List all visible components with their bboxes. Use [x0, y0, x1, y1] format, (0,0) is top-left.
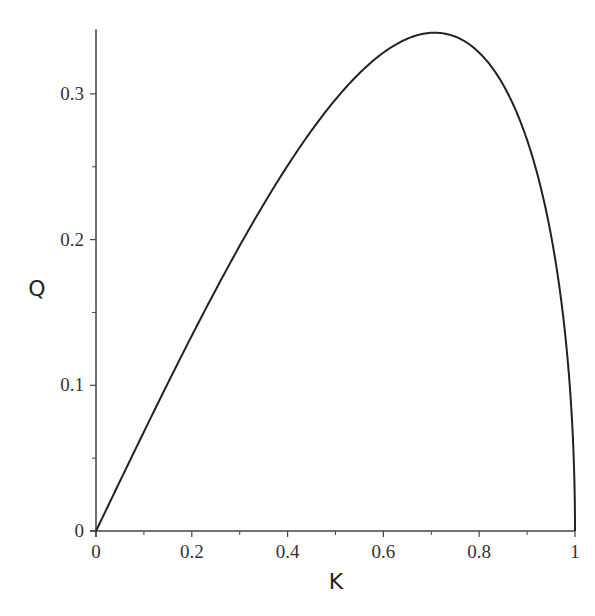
- y-axis-title: Q: [28, 276, 45, 301]
- x-tick-label: 0.4: [276, 541, 300, 562]
- y-tick-label: 0: [75, 520, 85, 541]
- y-tick-label: 0.1: [60, 374, 84, 395]
- y-tick-label: 0.3: [60, 83, 84, 104]
- x-axis: 00.20.40.60.81: [90, 531, 580, 562]
- x-axis-title: K: [329, 569, 344, 594]
- y-axis: 00.10.20.3: [60, 29, 96, 541]
- x-tick-label: 1: [570, 541, 580, 562]
- data-series-curve: [96, 33, 575, 531]
- x-tick-label: 0: [91, 541, 101, 562]
- chart: 00.20.40.60.81 00.10.20.3 K Q: [0, 0, 595, 616]
- x-tick-label: 0.2: [180, 541, 204, 562]
- y-tick-label: 0.2: [60, 229, 84, 250]
- x-tick-label: 0.8: [467, 541, 491, 562]
- x-tick-label: 0.6: [372, 541, 396, 562]
